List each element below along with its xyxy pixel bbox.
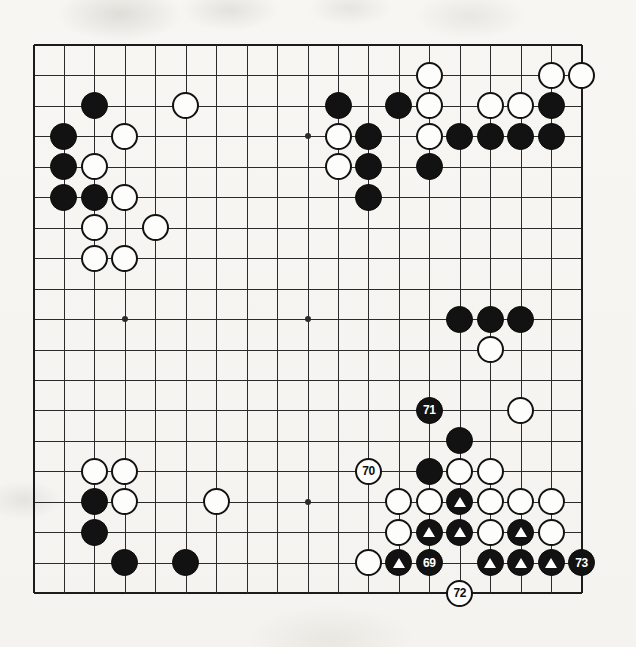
star-point <box>305 499 311 505</box>
stone-black[interactable] <box>325 92 352 119</box>
marked-stone-black[interactable] <box>385 549 412 576</box>
stone-black[interactable] <box>50 153 77 180</box>
marked-stone-black[interactable] <box>538 549 565 576</box>
stone-white[interactable] <box>538 62 565 89</box>
stone-black[interactable] <box>50 184 77 211</box>
stone-white[interactable] <box>416 92 443 119</box>
marked-stone-black[interactable] <box>477 549 504 576</box>
stone-black[interactable] <box>416 458 443 485</box>
stone-white[interactable] <box>355 549 382 576</box>
stone-white[interactable] <box>477 488 504 515</box>
stone-white[interactable] <box>477 336 504 363</box>
stone-white[interactable] <box>385 519 412 546</box>
marked-stone-black[interactable] <box>446 519 473 546</box>
stone-white[interactable] <box>325 153 352 180</box>
stone-white[interactable] <box>111 245 138 272</box>
stone-black[interactable] <box>507 123 534 150</box>
marked-stone-black[interactable] <box>507 519 534 546</box>
move-number-label: 70 <box>362 465 375 477</box>
stone-white[interactable] <box>81 214 108 241</box>
stone-white[interactable] <box>477 92 504 119</box>
stone-black[interactable] <box>81 92 108 119</box>
stone-white[interactable] <box>385 488 412 515</box>
grid-line-vertical <box>33 45 35 593</box>
stone-white[interactable] <box>538 519 565 546</box>
stone-white[interactable] <box>172 92 199 119</box>
stone-white[interactable] <box>568 62 595 89</box>
star-point <box>122 316 128 322</box>
stone-white[interactable] <box>477 519 504 546</box>
marked-stone-black[interactable] <box>416 519 443 546</box>
stone-white[interactable] <box>111 184 138 211</box>
stone-white[interactable] <box>81 245 108 272</box>
stone-white[interactable] <box>507 488 534 515</box>
stone-black[interactable] <box>538 123 565 150</box>
grid-line-vertical <box>186 45 187 593</box>
stone-black[interactable] <box>81 519 108 546</box>
move-number-label: 73 <box>575 557 588 569</box>
stone-white[interactable] <box>325 123 352 150</box>
stone-black[interactable] <box>172 549 199 576</box>
triangle-marker-icon <box>423 527 435 537</box>
stone-white[interactable] <box>203 488 230 515</box>
triangle-marker-icon <box>545 558 557 568</box>
move-number-label: 72 <box>454 587 467 599</box>
stone-black[interactable] <box>355 153 382 180</box>
stone-white[interactable] <box>507 92 534 119</box>
stone-black[interactable] <box>50 123 77 150</box>
stone-white[interactable] <box>416 488 443 515</box>
stone-white[interactable] <box>538 488 565 515</box>
stone-white[interactable] <box>111 123 138 150</box>
move-stone-69[interactable]: 69 <box>416 549 443 576</box>
stone-black[interactable] <box>111 549 138 576</box>
stone-white[interactable] <box>507 397 534 424</box>
triangle-marker-icon <box>393 558 405 568</box>
stone-black[interactable] <box>446 123 473 150</box>
move-stone-71[interactable]: 71 <box>416 397 443 424</box>
stone-black[interactable] <box>416 153 443 180</box>
move-stone-72[interactable]: 72 <box>446 580 473 607</box>
stone-white[interactable] <box>111 458 138 485</box>
stone-black[interactable] <box>81 488 108 515</box>
marked-stone-black[interactable] <box>446 488 473 515</box>
grid-line-vertical <box>277 45 278 593</box>
stone-black[interactable] <box>538 92 565 119</box>
stone-black[interactable] <box>477 306 504 333</box>
stone-black[interactable] <box>507 306 534 333</box>
stone-black[interactable] <box>355 184 382 211</box>
move-number-label: 69 <box>423 557 436 569</box>
stone-black[interactable] <box>385 92 412 119</box>
stone-black[interactable] <box>81 184 108 211</box>
move-stone-73[interactable]: 73 <box>568 549 595 576</box>
move-number-label: 71 <box>423 404 436 416</box>
stone-black[interactable] <box>477 123 504 150</box>
triangle-marker-icon <box>515 527 527 537</box>
triangle-marker-icon <box>484 558 496 568</box>
triangle-marker-icon <box>454 497 466 507</box>
stone-white[interactable] <box>81 458 108 485</box>
triangle-marker-icon <box>454 527 466 537</box>
triangle-marker-icon <box>515 558 527 568</box>
marked-stone-black[interactable] <box>507 549 534 576</box>
grid-line-vertical <box>247 45 248 593</box>
grid-line-vertical <box>581 45 583 593</box>
stone-white[interactable] <box>446 458 473 485</box>
stone-black[interactable] <box>446 306 473 333</box>
move-stone-70[interactable]: 70 <box>355 458 382 485</box>
stone-white[interactable] <box>416 62 443 89</box>
grid-line-vertical <box>155 45 156 593</box>
go-board[interactable]: 7170697372 <box>0 0 636 647</box>
stone-white[interactable] <box>142 214 169 241</box>
stone-black[interactable] <box>446 427 473 454</box>
star-point <box>305 316 311 322</box>
stone-black[interactable] <box>355 123 382 150</box>
stone-white[interactable] <box>81 153 108 180</box>
stone-white[interactable] <box>416 123 443 150</box>
stone-white[interactable] <box>111 488 138 515</box>
stone-white[interactable] <box>477 458 504 485</box>
star-point <box>305 133 311 139</box>
